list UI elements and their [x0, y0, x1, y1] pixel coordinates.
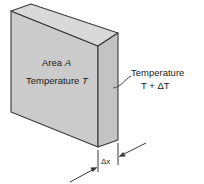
- dimension-arrow-left: [70, 167, 98, 182]
- temperature-right-label-line2: T + ΔT: [141, 81, 170, 91]
- thickness-label: Δx: [101, 158, 110, 166]
- area-label: Area A: [42, 58, 71, 68]
- temperature-left-symbol: T: [82, 75, 88, 86]
- temperature-left-label: Temperature T: [26, 76, 88, 86]
- slab-right-face: [98, 33, 118, 147]
- temperature-left-prefix: Temperature: [26, 75, 82, 86]
- area-label-prefix: Area: [42, 57, 65, 68]
- dimension-arrow-right: [119, 143, 147, 157]
- area-symbol: A: [65, 57, 71, 68]
- temperature-right-label-line1: Temperature: [131, 68, 184, 78]
- figure-container: Area A Temperature T Temperature T + ΔT …: [0, 0, 204, 184]
